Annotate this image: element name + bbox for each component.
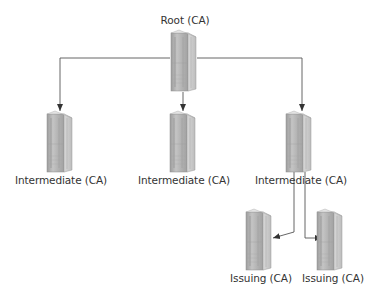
node-label-root: Root (CA) <box>161 14 210 26</box>
node-label-issuing-1: Issuing (CA) <box>230 272 292 284</box>
node-label-intermediate-2: Intermediate (CA) <box>138 174 230 186</box>
edge-root-int1 <box>60 58 170 111</box>
server-icon-root <box>171 30 196 91</box>
ca-hierarchy-diagram: Root (CA) Intermediate (CA) Intermediate… <box>0 0 383 296</box>
server-icon-intermediate-1 <box>47 111 72 172</box>
node-label-intermediate-1: Intermediate (CA) <box>15 174 107 186</box>
server-icon-intermediate-2 <box>170 111 195 172</box>
server-icon-issuing-2 <box>317 209 342 270</box>
diagram-canvas <box>0 0 383 296</box>
server-icon-issuing-1 <box>246 209 271 270</box>
node-label-intermediate-3: Intermediate (CA) <box>255 174 347 186</box>
server-icon-intermediate-3 <box>286 111 311 172</box>
node-label-issuing-2: Issuing (CA) <box>302 272 364 284</box>
edge-root-int3 <box>197 58 302 111</box>
